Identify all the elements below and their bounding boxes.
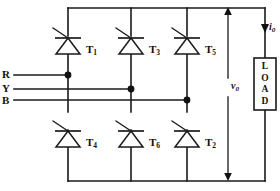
load-label: L O A D xyxy=(254,62,276,106)
T2-index: 2 xyxy=(212,141,216,150)
T5-gate-lead xyxy=(172,28,187,38)
thyristor-T2 xyxy=(172,121,200,147)
load-letter-A: A xyxy=(262,85,269,95)
output-voltage-arrow xyxy=(224,7,232,181)
output-current-arrow xyxy=(261,24,269,33)
T5-triangle xyxy=(175,38,199,54)
thyristor-T5 xyxy=(172,28,200,54)
device-label-T4: T4 xyxy=(86,137,97,148)
T6-triangle xyxy=(119,131,143,147)
v0-subscript: 0 xyxy=(235,85,239,93)
phase-label-R: R xyxy=(2,69,10,80)
thyristor-T3 xyxy=(116,28,144,54)
T1-triangle xyxy=(56,38,80,54)
T4-index: 4 xyxy=(93,141,97,150)
load-letter-O: O xyxy=(261,74,268,84)
load-letter-D: D xyxy=(262,97,269,107)
T1-gate-lead xyxy=(53,28,68,38)
circuit-diagram: R Y B T1 T3 T5 T4 T6 T2 L O A D v0 i0 xyxy=(0,0,280,191)
i0-subscript: 0 xyxy=(272,26,276,34)
output-current-label: i0 xyxy=(269,22,275,32)
thyristor-T1 xyxy=(53,28,81,54)
T3-gate-lead xyxy=(116,28,131,38)
thyristor-T6 xyxy=(116,121,144,147)
phase-label-Y: Y xyxy=(2,83,10,94)
T3-triangle xyxy=(119,38,143,54)
load-letter-L: L xyxy=(262,62,268,72)
T1-index: 1 xyxy=(93,48,97,57)
device-label-T1: T1 xyxy=(86,44,97,55)
T5-index: 5 xyxy=(212,48,216,57)
i0-arrowhead-down xyxy=(261,24,269,33)
schematic-svg xyxy=(0,0,280,191)
T4-gate-lead xyxy=(53,121,68,131)
junction-dot-R xyxy=(65,72,72,79)
T4-triangle xyxy=(56,131,80,147)
device-label-T3: T3 xyxy=(149,44,160,55)
junction-dot-B xyxy=(184,97,191,104)
thyristor-T4 xyxy=(53,121,81,147)
device-label-T6: T6 xyxy=(149,137,160,148)
output-voltage-label: v0 xyxy=(231,81,239,91)
device-label-T5: T5 xyxy=(205,44,216,55)
T2-gate-lead xyxy=(172,121,187,131)
v0-arrowhead-down xyxy=(224,173,232,181)
T6-index: 6 xyxy=(156,141,160,150)
T3-index: 3 xyxy=(156,48,160,57)
T6-gate-lead xyxy=(116,121,131,131)
T2-triangle xyxy=(175,131,199,147)
device-label-T2: T2 xyxy=(205,137,216,148)
phase-label-B: B xyxy=(2,95,9,106)
junction-dot-Y xyxy=(128,86,135,93)
